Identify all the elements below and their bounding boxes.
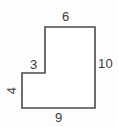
- dimension-label-left: 4: [5, 87, 18, 94]
- dimension-label-right: 10: [98, 57, 113, 70]
- dimension-label-top: 6: [62, 10, 69, 23]
- geometry-figure: 6 10 9 3 4: [0, 0, 118, 127]
- dimension-label-bottom: 9: [55, 111, 62, 124]
- dimension-label-notch: 3: [30, 58, 37, 71]
